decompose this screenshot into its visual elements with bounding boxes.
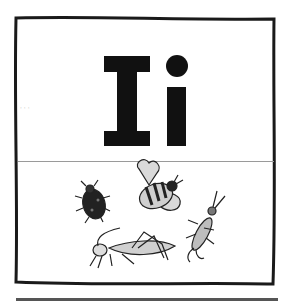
alphabet-card: Ii — [14, 16, 276, 286]
bee-icon — [136, 160, 183, 213]
insects-illustration — [14, 16, 276, 286]
scan-specks: · · · — [20, 104, 30, 111]
next-card-edge — [16, 298, 278, 303]
earwig-icon — [186, 191, 225, 262]
ladybug-icon — [75, 180, 110, 223]
grasshopper-icon — [90, 228, 175, 268]
